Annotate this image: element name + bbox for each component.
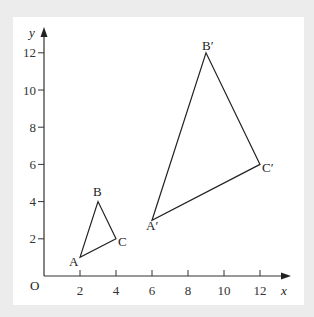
y-tick-label: 4 <box>30 194 37 209</box>
x-tick-label: 12 <box>254 283 267 298</box>
y-axis-label: y <box>27 25 35 40</box>
x-axis-label: x <box>280 283 287 298</box>
vertex-label-a-prime: A′ <box>146 218 158 233</box>
y-tick-label: 6 <box>30 157 37 172</box>
y-axis-arrow-icon <box>41 27 48 37</box>
origin-label: O <box>30 278 39 293</box>
x-tick-label: 10 <box>218 283 231 298</box>
coordinate-plane: 2 4 6 8 10 12 2 4 6 8 10 12 x y O A B C … <box>0 0 314 317</box>
vertex-label-c-prime: C′ <box>262 160 274 175</box>
axes <box>44 36 283 276</box>
y-tick-label: 10 <box>23 83 36 98</box>
y-tick-label: 12 <box>23 45 36 60</box>
x-tick-label: 2 <box>77 283 84 298</box>
y-tick-label: 2 <box>30 231 37 246</box>
x-axis-arrow-icon <box>281 273 291 280</box>
x-tick-label: 6 <box>149 283 156 298</box>
triangle-abc <box>80 202 116 258</box>
y-ticks <box>38 53 44 239</box>
triangle-a-prime-b-prime-c-prime <box>152 53 260 220</box>
x-tick-label: 4 <box>113 283 120 298</box>
vertex-label-c: C <box>118 234 127 249</box>
x-tick-label: 8 <box>185 283 192 298</box>
vertex-label-a: A <box>69 254 79 269</box>
x-ticks <box>80 270 260 276</box>
vertex-label-b: B <box>93 184 102 199</box>
vertex-label-b-prime: B′ <box>202 38 214 53</box>
y-tick-label: 8 <box>30 120 37 135</box>
